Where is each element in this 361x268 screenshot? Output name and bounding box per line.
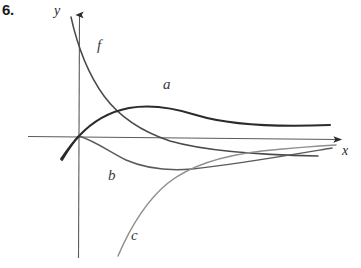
curve-c <box>118 145 336 256</box>
curve-label-f: f <box>97 37 101 54</box>
curve-f <box>71 17 318 156</box>
curve-label-b: b <box>108 167 116 184</box>
figure-container: 6. y x f a b c <box>0 0 361 268</box>
curve-b <box>79 136 332 170</box>
problem-number: 6. <box>2 1 14 18</box>
y-axis-label: y <box>54 3 60 19</box>
curve-label-a: a <box>163 76 171 93</box>
x-axis-label: x <box>342 143 348 159</box>
x-axis <box>28 137 338 140</box>
graph-svg <box>0 0 361 268</box>
curve-label-c: c <box>131 227 138 244</box>
curve-a <box>61 106 330 159</box>
curve-a-tail <box>62 136 79 160</box>
axes-group <box>28 15 338 258</box>
